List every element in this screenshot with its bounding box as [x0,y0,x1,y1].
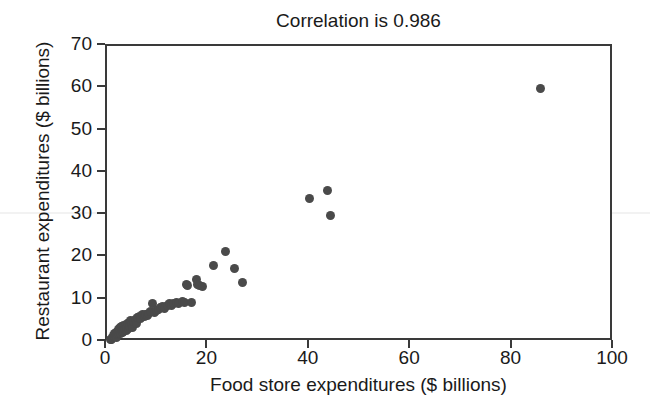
scatter-plot-figure: Correlation is 0.986 010203040506070 020… [0,0,650,407]
data-point [238,278,247,287]
data-point [198,282,207,291]
data-point [230,264,239,273]
y-axis-tick-mark [97,297,105,299]
x-axis-tick-label: 0 [75,348,135,367]
y-axis-tick-mark [97,170,105,172]
y-axis-tick-label: 30 [50,203,92,222]
data-point [323,186,332,195]
data-point [536,84,545,93]
y-axis-tick-label: 60 [50,76,92,95]
y-axis-tick-label: 50 [50,119,92,138]
y-axis-label: Restaurant expenditures ($ billions) [32,26,54,356]
y-axis-tick-label: 10 [50,288,92,307]
data-point [183,281,192,290]
x-axis-tick-label: 40 [278,348,338,367]
y-axis-tick-mark [97,254,105,256]
x-axis-tick-label: 80 [481,348,541,367]
y-axis-tick-mark [97,128,105,130]
x-axis-label: Food store expenditures ($ billions) [105,374,612,396]
x-axis-tick-label: 60 [379,348,439,367]
y-axis-tick-mark [97,43,105,45]
data-point [305,194,314,203]
y-axis-tick-mark [97,85,105,87]
page-title: Correlation is 0.986 [105,10,612,32]
data-point [326,211,335,220]
data-point [221,247,230,256]
data-point [209,261,218,270]
y-axis-tick-label: 0 [50,330,92,349]
x-axis-tick-label: 20 [176,348,236,367]
y-axis-tick-label: 70 [50,34,92,53]
x-axis-tick-label: 100 [582,348,642,367]
y-axis-tick-label: 20 [50,245,92,264]
plot-area [105,44,612,340]
y-axis-tick-label: 40 [50,161,92,180]
y-axis-tick-mark [97,212,105,214]
data-point [187,298,196,307]
data-points-layer [107,46,614,342]
